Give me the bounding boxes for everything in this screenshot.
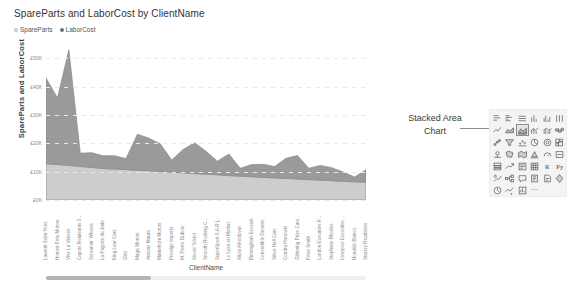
- legend-item-laborcost[interactable]: LaborCost: [60, 26, 96, 33]
- scrollbar-thumb[interactable]: [46, 276, 151, 280]
- stacked-area-chart-visual[interactable]: SpareParts and LaborCost by ClientName S…: [0, 0, 390, 292]
- horizontal-scrollbar[interactable]: [46, 276, 366, 280]
- shape-map-icon[interactable]: [516, 148, 529, 160]
- x-axis-tick-label: Peter Smith: [306, 236, 311, 260]
- line-and-stacked-column-chart-icon[interactable]: [529, 124, 542, 136]
- x-axis-tick-label: M. Pierre Dubois: [180, 226, 185, 260]
- pie-chart-icon[interactable]: [529, 136, 542, 148]
- gridline: [46, 58, 366, 59]
- more-options-icon[interactable]: ⋯: [529, 184, 542, 196]
- kpi-icon[interactable]: [504, 160, 517, 172]
- x-axis-tick-label: Magic Motors: [135, 232, 140, 260]
- map-icon[interactable]: [491, 148, 504, 160]
- x-axis-tick-label: SuperSport S.A.R.L.: [215, 218, 220, 260]
- donut-chart-icon[interactable]: [541, 136, 554, 148]
- x-axis-tick-label: Prestige Imports: [169, 227, 174, 260]
- gridline: [46, 200, 366, 201]
- azure-map-icon[interactable]: [529, 148, 542, 160]
- x-axis-tick-label: London Executive P...: [317, 216, 322, 260]
- x-axis-tick-label: Screamin' Wheels: [89, 223, 94, 260]
- x-axis-tick-label: Birmingham Executi...: [249, 215, 254, 260]
- screenshot-root: SpareParts and LaborCost by ClientName S…: [0, 0, 581, 292]
- x-axis-tick-label: Le Luxe en Motion: [226, 222, 231, 260]
- y-axis-tick-label: £30K: [30, 112, 42, 118]
- y-axis-title: SpareParts and LaborCost: [17, 29, 26, 149]
- x-axis-tick-label: Laurent Saint Yves: [43, 222, 48, 260]
- x-axis-tick-label: Convertible Dreams: [260, 219, 265, 260]
- x-axis-tick-label: La Pagode du Jade: [100, 220, 105, 260]
- clustered-bar-chart-icon[interactable]: [504, 112, 517, 124]
- annotation-line-1: Stacked Area: [396, 112, 474, 125]
- x-axis-tick-label: Ronaldo Bianco: [352, 228, 357, 260]
- legend-item-label: LaborCost: [66, 26, 96, 33]
- build-visual-icon[interactable]: [516, 184, 529, 196]
- annotation-line-2: Chart: [396, 125, 474, 138]
- x-axis-tick-label: King Lear Cars: [112, 229, 117, 260]
- y-axis-tick-label: £0K: [33, 197, 42, 203]
- plot-area: £50K£40K£30K£20K£10K£0K: [46, 44, 366, 200]
- y-axis-tick-label: £20K: [30, 140, 42, 146]
- y-axis-tick-label: £10K: [30, 169, 42, 175]
- ribbon-chart-icon[interactable]: [554, 124, 567, 136]
- scatter-chart-icon[interactable]: [516, 136, 529, 148]
- gauge-icon[interactable]: [541, 148, 554, 160]
- hundred-stacked-bar-chart-icon[interactable]: [516, 112, 529, 124]
- gridline: [46, 172, 366, 173]
- gridline: [46, 143, 366, 144]
- stacked-area-chart-icon[interactable]: [516, 124, 529, 136]
- decomposition-tree-icon[interactable]: [504, 172, 517, 184]
- smart-narrative-icon[interactable]: [529, 172, 542, 184]
- waterfall-chart-icon[interactable]: [491, 136, 504, 148]
- card-icon[interactable]: [554, 148, 567, 160]
- x-axis-tick-label: Stephany Rhodes: [329, 223, 334, 260]
- line-chart-icon[interactable]: [491, 124, 504, 136]
- gridline: [46, 115, 366, 116]
- x-axis-tick-label: Alicia Almodovar: [237, 226, 242, 260]
- x-axis-tick-label: Condra Horowitz: [283, 226, 288, 260]
- paginated-report-icon[interactable]: [541, 172, 554, 184]
- hundred-stacked-column-chart-icon[interactable]: [554, 112, 567, 124]
- qna-icon[interactable]: [516, 172, 529, 184]
- x-axis-tick-label: Snazzy Roadsters: [363, 223, 368, 260]
- chart-legend: SpareParts LaborCost: [14, 26, 96, 33]
- gridline: [46, 87, 366, 88]
- y-axis-tick-label: £50K: [30, 55, 42, 61]
- annotation-label: Stacked Area Chart: [396, 112, 474, 138]
- line-and-clustered-column-chart-icon[interactable]: [541, 124, 554, 136]
- area-series-group: [46, 44, 366, 200]
- get-more-visuals-icon[interactable]: [504, 184, 517, 196]
- stacked-bar-chart-icon[interactable]: [491, 112, 504, 124]
- python-visual-icon[interactable]: Py: [554, 160, 567, 172]
- slicer-icon[interactable]: [516, 160, 529, 172]
- legend-marker-icon: [60, 28, 64, 32]
- treemap-icon[interactable]: [554, 136, 567, 148]
- x-axis-tick-label: Capots Reluisants S...: [77, 215, 82, 260]
- key-influencers-icon[interactable]: [491, 172, 504, 184]
- multi-row-card-icon[interactable]: [491, 160, 504, 172]
- clustered-column-chart-icon[interactable]: [541, 112, 554, 124]
- power-apps-icon[interactable]: [554, 172, 567, 184]
- stacked-column-chart-icon[interactable]: [529, 112, 542, 124]
- funnel-chart-icon[interactable]: [504, 136, 517, 148]
- visualizations-pane[interactable]: RPy⋯: [489, 109, 567, 197]
- x-axis-tick-label: Liverpool Executive ...: [340, 215, 345, 260]
- r-script-visual-icon[interactable]: R: [541, 160, 554, 172]
- filled-map-icon[interactable]: [504, 148, 517, 160]
- x-axis-tick-label: Vive La Vitesse: [66, 229, 71, 261]
- y-axis-tick-label: £40K: [30, 84, 42, 90]
- area-chart-icon[interactable]: [504, 124, 517, 136]
- visualization-type-grid[interactable]: RPy⋯: [491, 112, 565, 196]
- x-axis-tick-label: Antonio Maura: [146, 230, 151, 260]
- x-axis-tick-label: Glitz: [123, 251, 128, 260]
- x-axis-tick-label: Smooth Rocking C...: [203, 218, 208, 260]
- table-icon[interactable]: [529, 160, 542, 172]
- x-axis-tick-label: Silver Hall Cars: [272, 228, 277, 260]
- x-axis-tick-labels: Laurent Saint YvesHonest Pete MotorsVive…: [46, 202, 366, 260]
- x-axis-tick-label: Matterhorn Motors: [157, 222, 162, 260]
- metrics-icon[interactable]: [491, 184, 504, 196]
- page-title: SpareParts and LaborCost by ClientName: [14, 8, 205, 19]
- x-axis-tick-label: Glittering Prize Cars...: [295, 215, 300, 260]
- x-axis-tick-label: Alexei Tolstoi: [192, 233, 197, 260]
- x-axis-title: ClientName: [46, 264, 366, 271]
- x-axis-tick-label: Honest Pete Motors: [55, 219, 60, 260]
